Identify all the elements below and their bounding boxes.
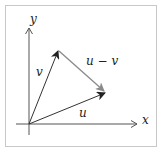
vector-u-minus-v-label: u − v [86,54,118,68]
y-axis-label: y [29,12,37,26]
vector-u [29,93,105,124]
vector-v-label: v [36,65,43,79]
vector-u-label: u [79,106,87,120]
vector-diagram: y x v u u − v [0,0,164,156]
vector-v [29,51,58,124]
x-axis-label: x [142,113,149,127]
